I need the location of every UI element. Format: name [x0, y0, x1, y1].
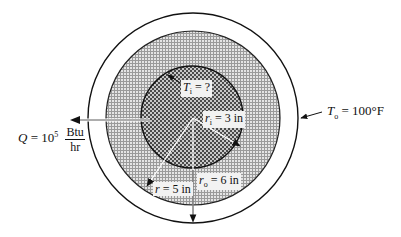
inner-temp-label: Ti = ?: [181, 80, 212, 97]
outer-temp-label: To = 100°F: [327, 104, 384, 121]
heat-rate-unit: Btu hr: [65, 126, 84, 153]
inner-radius-label: ri = 3 in: [203, 111, 245, 128]
radius-label: r = 5 in: [153, 182, 193, 196]
outer-temp-leader: [301, 112, 322, 118]
heat-rate-label: Q = 105 Btu hr: [18, 126, 85, 153]
outer-radius-label: ro = 6 in: [197, 173, 241, 190]
